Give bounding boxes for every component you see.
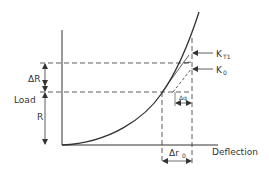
load-deflection-diagram: ΔR Load R K T1 K 0 Δq Δr 0 Deflection [0, 0, 269, 171]
load-deflection-curve [62, 12, 199, 145]
load-axis-label: Load [14, 95, 36, 105]
K0-subscript: 0 [223, 69, 227, 76]
K0-short-line [184, 62, 191, 63]
deflection-axis-label: Deflection [212, 147, 258, 157]
tangent-KT1-line [162, 55, 189, 92]
delta-r0-subscript: 0 [182, 152, 186, 159]
secant-K0-line [173, 68, 192, 92]
delta-r0-label: Δr [169, 148, 179, 158]
delta-R-label: ΔR [28, 74, 40, 84]
KT1-subscript: T1 [222, 53, 231, 60]
delta-q-label: Δq [179, 94, 187, 102]
R-label: R [37, 112, 43, 122]
KT1-label: K [216, 49, 223, 59]
K0-label: K [216, 65, 223, 75]
